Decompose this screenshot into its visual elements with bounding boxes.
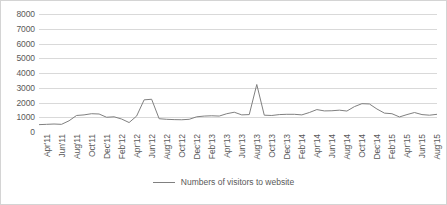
x-tick-label: Apr'15	[402, 134, 412, 158]
plot-area	[39, 14, 437, 132]
x-tick-label: Aug'11	[72, 134, 82, 159]
x-tick-label: Dec'13	[282, 134, 292, 160]
y-tick-label: 7000	[16, 24, 35, 34]
chart-legend: Numbers of visitors to website	[1, 177, 446, 187]
data-series	[39, 14, 437, 132]
x-tick-label: Oct'14	[357, 134, 367, 158]
y-tick-label: 2000	[16, 98, 35, 108]
legend-line-swatch	[153, 182, 175, 183]
chart-container: 010002000300040005000600070008000 Apr'11…	[0, 0, 447, 205]
x-tick-label: Oct'13	[267, 134, 277, 158]
x-tick-label: Jun'15	[417, 134, 427, 158]
x-tick-label: Jun'12	[147, 134, 157, 158]
x-tick-label: Jun'11	[57, 134, 67, 158]
x-tick-label: Feb'12	[117, 134, 127, 159]
y-tick-label: 1000	[16, 112, 35, 122]
x-tick-label: Feb'13	[207, 134, 217, 159]
x-tick-label: Aug'15	[432, 134, 442, 160]
x-tick-label: Apr'11	[42, 134, 52, 157]
y-tick-label: 8000	[16, 9, 35, 19]
legend-label: Numbers of visitors to website	[181, 177, 294, 187]
x-tick-label: Dec'12	[192, 134, 202, 160]
y-axis: 010002000300040005000600070008000	[1, 14, 35, 132]
x-tick-label: Aug'13	[252, 134, 262, 160]
x-tick-label: Feb'15	[387, 134, 397, 159]
x-tick-label: Apr'14	[312, 134, 322, 158]
x-tick-label: Jun'14	[327, 134, 337, 158]
series-line-visitors	[39, 85, 437, 125]
x-tick-label: Aug'12	[162, 134, 172, 160]
x-axis: Apr'11Jun'11Aug'11Oct'11Dec'11Feb'12Apr'…	[39, 134, 437, 174]
x-tick-label: Apr'12	[132, 134, 142, 158]
y-tick-label: 4000	[16, 68, 35, 78]
x-tick-label: Dec'14	[372, 134, 382, 160]
x-tick-label: Feb'14	[297, 134, 307, 159]
x-tick-label: Jun'13	[237, 134, 247, 158]
y-tick-label: 5000	[16, 53, 35, 63]
x-tick-label: Apr'13	[222, 134, 232, 158]
y-tick-label: 6000	[16, 39, 35, 49]
y-tick-label: 0	[30, 127, 35, 137]
y-tick-label: 3000	[16, 83, 35, 93]
x-tick-label: Oct'11	[87, 134, 97, 157]
x-tick-label: Aug'14	[342, 134, 352, 160]
x-tick-label: Dec'11	[102, 134, 112, 159]
x-tick-label: Oct'12	[177, 134, 187, 158]
